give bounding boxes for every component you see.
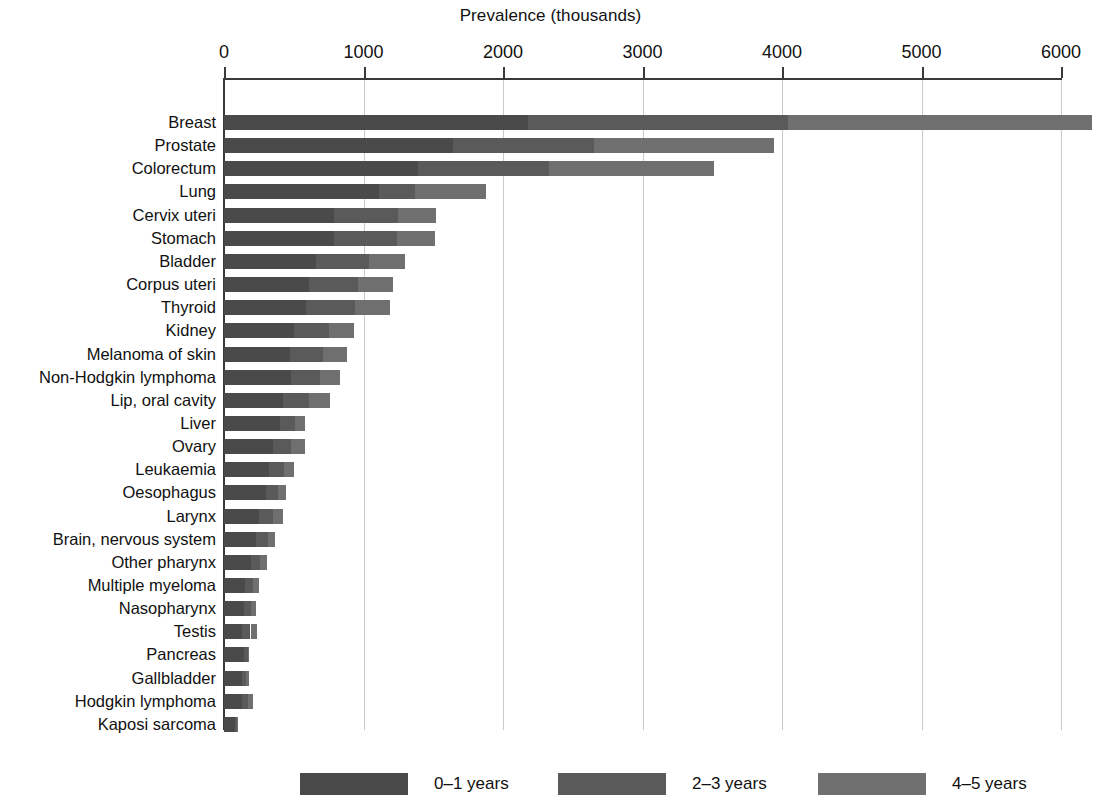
bar-segment (224, 624, 242, 639)
category-label: Prostate (0, 137, 216, 154)
category-label: Cervix uteri (0, 207, 216, 224)
bar-segment (245, 578, 253, 593)
category-label: Bladder (0, 253, 216, 270)
bar-segment (224, 694, 242, 709)
bar-segment (224, 138, 453, 153)
gridline (643, 80, 644, 730)
bar-segment (251, 601, 256, 616)
bar-segment (251, 555, 260, 570)
gridline (922, 80, 923, 730)
bar-segment (549, 161, 714, 176)
legend-label: 2–3 years (692, 774, 767, 794)
category-label: Non-Hodgkin lymphoma (0, 369, 216, 386)
bar-segment (291, 439, 305, 454)
category-label: Liver (0, 415, 216, 432)
plot-area: 0100020003000400050006000 (224, 78, 1062, 745)
x-tick-mark (643, 67, 645, 78)
bar-segment (329, 323, 354, 338)
bar-segment (224, 439, 273, 454)
bar-segment (291, 370, 320, 385)
category-label: Kaposi sarcoma (0, 716, 216, 733)
bar-segment (224, 462, 269, 477)
bar-segment (260, 555, 267, 570)
category-label: Colorectum (0, 160, 216, 177)
bar-segment (224, 370, 291, 385)
category-label: Thyroid (0, 299, 216, 316)
category-label: Larynx (0, 508, 216, 525)
bar-segment (224, 578, 245, 593)
x-tick-label: 4000 (762, 42, 802, 63)
bar-segment (224, 323, 294, 338)
bar-segment (283, 393, 310, 408)
category-label: Melanoma of skin (0, 346, 216, 363)
bar-segment (309, 277, 358, 292)
legend-item[interactable]: 2–3 years (558, 773, 767, 795)
bar-segment (320, 370, 340, 385)
category-label: Testis (0, 623, 216, 640)
bar-segment (334, 231, 397, 246)
bar-segment (594, 138, 774, 153)
bar-segment (224, 184, 379, 199)
x-tick-mark (503, 67, 505, 78)
bar-segment (244, 601, 252, 616)
bar-segment (398, 208, 436, 223)
bar-segment (334, 208, 398, 223)
category-label: Stomach (0, 230, 216, 247)
bar-segment (294, 323, 329, 338)
bar-segment (266, 485, 279, 500)
bar-segment (418, 161, 549, 176)
category-label: Other pharynx (0, 554, 216, 571)
bar-segment (788, 115, 1092, 130)
bar-segment (268, 532, 275, 547)
bar-segment (246, 671, 249, 686)
bar-segment (284, 462, 294, 477)
bar-segment (224, 300, 306, 315)
bar-segment (224, 555, 251, 570)
bar-segment (316, 254, 369, 269)
bar-segment (273, 439, 291, 454)
legend-item[interactable]: 0–1 years (300, 773, 509, 795)
category-label: Kidney (0, 322, 216, 339)
bar-segment (224, 532, 256, 547)
bar-segment (309, 393, 330, 408)
x-tick-mark (224, 67, 226, 78)
bar-segment (256, 532, 268, 547)
x-tick-label: 1000 (343, 42, 383, 63)
bar-segment (273, 509, 283, 524)
x-tick-label: 6000 (1041, 42, 1081, 63)
bar-segment (224, 671, 242, 686)
gridline (782, 80, 783, 730)
bar-segment (224, 254, 316, 269)
x-tick-label: 5000 (901, 42, 941, 63)
bar-segment (355, 300, 390, 315)
category-label: Oesophagus (0, 484, 216, 501)
x-tick-mark (782, 67, 784, 78)
category-label: Leukaemia (0, 461, 216, 478)
chart-legend: 0–1 years2–3 years4–5 years (0, 759, 1101, 801)
bar-segment (242, 624, 250, 639)
bar-segment (248, 647, 249, 662)
category-label: Lip, oral cavity (0, 392, 216, 409)
bar-segment (253, 578, 259, 593)
bar-segment (369, 254, 405, 269)
bar-segment (237, 717, 238, 732)
bar-segment (224, 115, 528, 130)
x-tick-mark (364, 67, 366, 78)
bar-segment (290, 347, 323, 362)
category-label: Corpus uteri (0, 276, 216, 293)
bar-segment (280, 416, 295, 431)
bar-segment (224, 509, 259, 524)
bar-segment (224, 231, 334, 246)
legend-label: 4–5 years (952, 774, 1027, 794)
gridline (1061, 80, 1062, 730)
prevalence-bar-chart: Prevalence (thousands) BreastProstateCol… (0, 0, 1101, 801)
bar-segment (224, 208, 334, 223)
bar-segment (397, 231, 435, 246)
bar-segment (224, 485, 266, 500)
category-label: Gallbladder (0, 670, 216, 687)
category-label: Pancreas (0, 646, 216, 663)
bar-segment (248, 694, 252, 709)
legend-item[interactable]: 4–5 years (818, 773, 1027, 795)
bar-segment (528, 115, 787, 130)
category-label: Nasopharynx (0, 600, 216, 617)
